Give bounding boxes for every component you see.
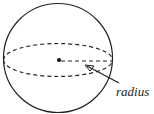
equator-front	[4, 60, 113, 77]
radius-label: radius	[116, 84, 149, 99]
equator-back	[4, 44, 113, 61]
center-point	[57, 58, 61, 62]
sphere-outline	[4, 4, 113, 113]
sphere-diagram: radius	[0, 0, 154, 114]
